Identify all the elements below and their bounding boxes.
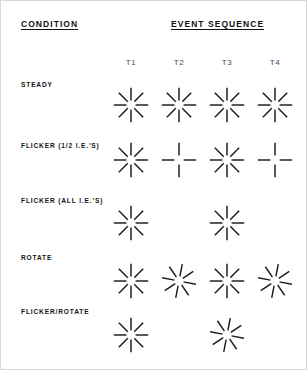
stimulus-cell [253, 138, 297, 182]
condition-row-label: FLICKER (ALL I.E.'S) [21, 197, 103, 204]
column-header-t2: T2 [167, 58, 191, 67]
stimulus-cell [205, 138, 249, 182]
column-header-t4: T4 [263, 58, 287, 67]
column-header-t3: T3 [215, 58, 239, 67]
stimulus-cell [205, 83, 249, 127]
stimulus-cell [157, 83, 201, 127]
column-header-t1: T1 [119, 58, 143, 67]
stimulus-cell [109, 313, 153, 357]
stimulus-cell [253, 259, 297, 303]
condition-row-label: STEADY [21, 81, 53, 88]
stimulus-cell [109, 259, 153, 303]
stimulus-cell [253, 83, 297, 127]
stimulus-cell [205, 201, 249, 245]
condition-row-label: FLICKER (1/2 I.E.'S) [21, 142, 100, 149]
stimulus-cell [157, 259, 201, 303]
condition-row-label: FLICKER/ROTATE [21, 308, 89, 315]
stimulus-cell [109, 201, 153, 245]
stimulus-cell [205, 259, 249, 303]
condition-row-label: ROTATE [21, 254, 52, 261]
stimulus-cell [157, 138, 201, 182]
event-sequence-figure: CONDITION EVENT SEQUENCE T1T2T3T4 STEADY… [0, 0, 307, 370]
condition-column-heading: CONDITION [21, 19, 78, 29]
stimulus-cell [205, 313, 249, 357]
stimulus-cell [109, 83, 153, 127]
stimulus-cell [109, 138, 153, 182]
event-sequence-heading: EVENT SEQUENCE [171, 19, 264, 29]
